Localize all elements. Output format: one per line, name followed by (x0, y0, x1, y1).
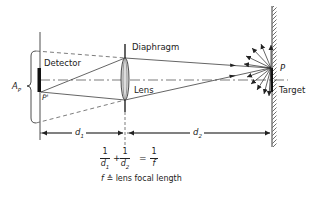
detector-element (38, 68, 42, 92)
detector-label: Detector (44, 59, 81, 68)
dashed-ray-top (36, 51, 125, 58)
lens-shape (121, 58, 129, 100)
lens-label: Lens (134, 86, 154, 95)
wall-hatching (273, 6, 277, 147)
aperture-label: AP (12, 82, 21, 93)
diaphragm-label: Diaphragm (132, 43, 179, 52)
d1-label: d1 (75, 128, 84, 139)
point-P-label: P (280, 64, 285, 73)
d2-label: d2 (193, 128, 202, 139)
focal-length-definition: f ≙ lens focal length (101, 175, 182, 183)
equals-sign: = (139, 153, 147, 163)
scattered-rays (244, 44, 271, 96)
target-label: Target (279, 86, 305, 95)
fraction-1-over-f: 1f (150, 148, 158, 168)
ray-detector-bottom (41, 92, 125, 100)
dashed-ray-bottom (36, 100, 125, 123)
fraction-1-over-d2: 1d2 (120, 148, 130, 170)
aperture-brace (27, 51, 36, 123)
ray-lens-bottom-to-P (125, 68, 270, 100)
fraction-1-over-d1: 1d1 (100, 148, 110, 170)
ray-lens-top-to-P (125, 58, 270, 68)
point-P-prime-label: P' (42, 94, 49, 102)
